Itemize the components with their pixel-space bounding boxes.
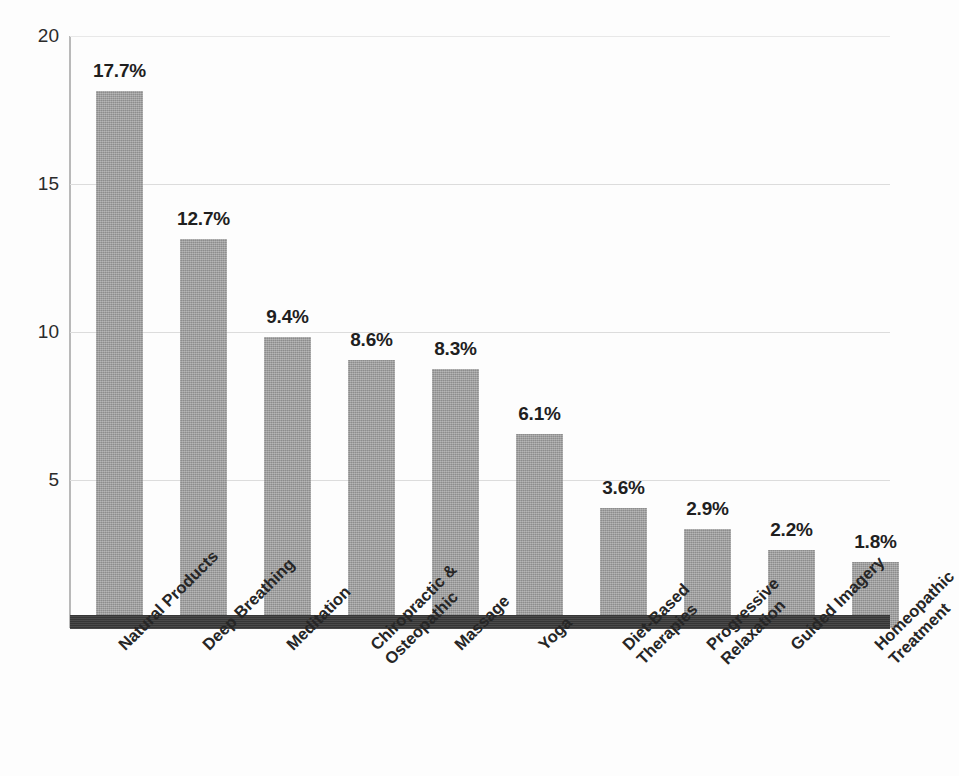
bar-value-label: 6.1%: [518, 403, 561, 425]
bar-value-label: 12.7%: [177, 208, 230, 230]
bar-value-label: 1.8%: [854, 531, 897, 553]
bar-value-label: 2.2%: [770, 519, 813, 541]
bar-value-label: 8.3%: [434, 338, 477, 360]
y-tick-label-5: 5: [48, 469, 59, 491]
y-tick-label-15: 15: [38, 173, 59, 195]
plot-area: 20 15 10 5 17.7%12.7%9.4%8.6%8.3%6.1%3.6…: [70, 36, 890, 628]
gridline-20: 20: [70, 36, 890, 37]
bar: [96, 91, 143, 628]
y-tick-label-20: 20: [38, 25, 59, 47]
bar-value-label: 3.6%: [602, 477, 645, 499]
y-tick-label-10: 10: [38, 321, 59, 343]
bar-value-label: 9.4%: [266, 306, 309, 328]
bar: [600, 508, 647, 628]
gridline-15: 15: [70, 184, 890, 185]
bar-value-label: 8.6%: [350, 329, 393, 351]
bar: [348, 360, 395, 628]
bar: [516, 434, 563, 628]
bar-value-label: 17.7%: [93, 60, 146, 82]
bar-value-label: 2.9%: [686, 498, 729, 520]
